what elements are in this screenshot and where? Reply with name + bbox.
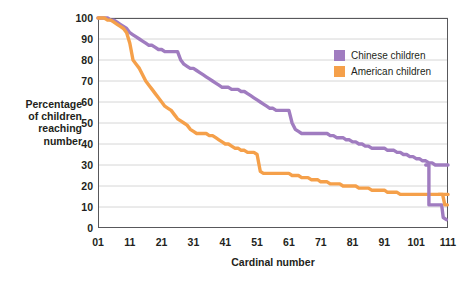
x-tick-label: 81: [347, 236, 359, 248]
legend-label-chinese-children: Chinese children: [351, 50, 426, 61]
legend-item-chinese-children: Chinese children: [334, 49, 431, 61]
x-tick-label: 41: [219, 236, 231, 248]
x-tick-label: 101: [407, 236, 425, 248]
chart-legend: Chinese children American children: [334, 49, 431, 77]
x-tick-label: 71: [315, 236, 327, 248]
x-tick-label: 111: [440, 236, 456, 248]
x-tick-label: 31: [188, 236, 200, 248]
x-tick-label: 61: [283, 236, 295, 248]
x-tick-label: 51: [251, 236, 263, 248]
legend-item-american-children: American children: [334, 65, 431, 77]
x-tick-label: 91: [379, 236, 391, 248]
legend-label-american-children: American children: [351, 66, 431, 77]
chart-figure: Percentage of children reaching number 0…: [0, 0, 470, 283]
x-axis-title: Cardinal number: [98, 256, 448, 268]
x-axis-tick-labels: 01112131415161718191101111: [0, 0, 470, 283]
legend-swatch-chinese-children: [334, 50, 345, 61]
x-tick-label: 11: [124, 236, 135, 248]
x-tick-label: 01: [92, 236, 104, 248]
x-tick-label: 21: [156, 236, 168, 248]
legend-swatch-american-children: [334, 66, 345, 77]
